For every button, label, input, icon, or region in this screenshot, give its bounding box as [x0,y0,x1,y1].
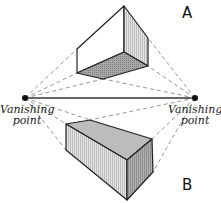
right-vanishing-point [192,95,198,101]
left-vp-label-line2: point [0,115,54,126]
left-vp-label: Vanishing point [0,104,54,126]
left-vanishing-point [22,95,28,101]
label-a: A [182,4,192,22]
diagram-drawing [0,0,221,203]
label-b: B [182,176,192,194]
perspective-diagram: A B Vanishing point Vanishing point [0,0,221,203]
box-b [66,120,153,200]
box-a [77,6,148,79]
right-vp-label-line2: point [168,115,221,126]
right-vp-label: Vanishing point [168,104,221,126]
